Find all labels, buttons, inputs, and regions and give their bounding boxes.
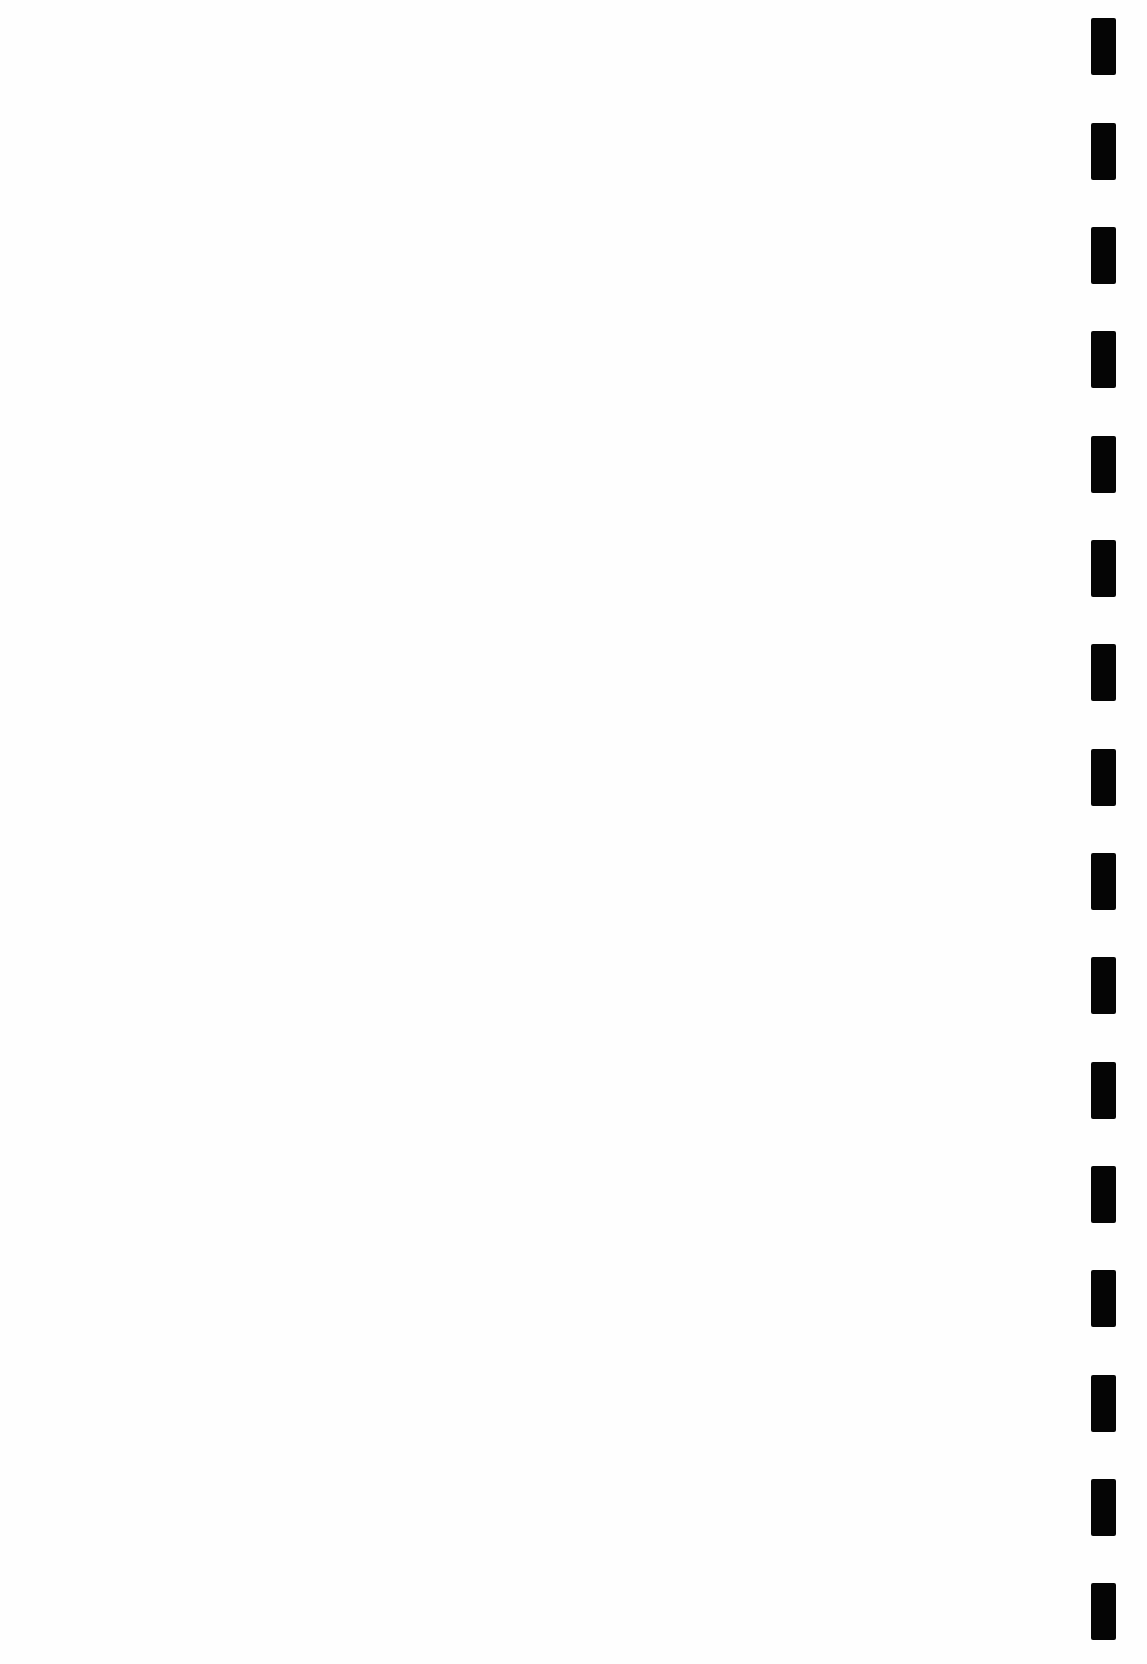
timing-mark — [1091, 331, 1116, 388]
timing-mark — [1091, 1062, 1116, 1119]
timing-mark — [1091, 540, 1116, 597]
timing-mark — [1091, 227, 1116, 284]
timing-mark — [1091, 957, 1116, 1014]
timing-mark — [1091, 18, 1116, 75]
timing-mark — [1091, 123, 1116, 180]
blank-scanned-page — [0, 0, 1147, 1664]
timing-mark — [1091, 1583, 1116, 1640]
timing-mark — [1091, 1479, 1116, 1536]
timing-mark — [1091, 1270, 1116, 1327]
timing-mark-column — [1091, 0, 1117, 1664]
timing-mark — [1091, 1375, 1116, 1432]
timing-mark — [1091, 436, 1116, 493]
timing-mark — [1091, 749, 1116, 806]
timing-mark — [1091, 1166, 1116, 1223]
timing-mark — [1091, 644, 1116, 701]
timing-mark — [1091, 853, 1116, 910]
